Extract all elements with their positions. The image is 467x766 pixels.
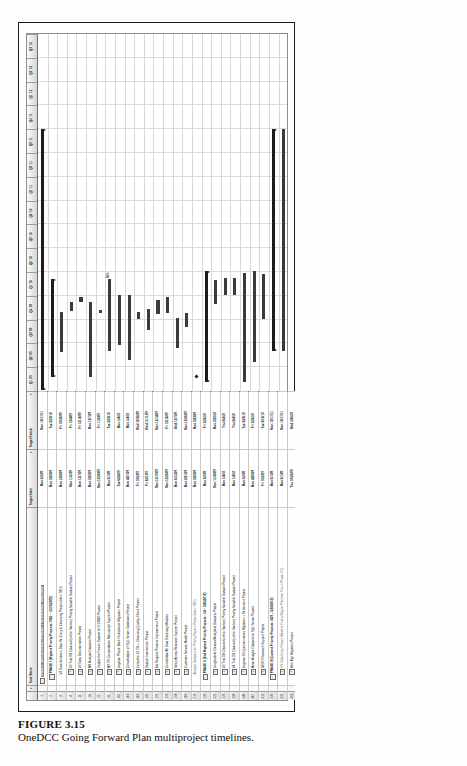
target-finish-cell[interactable]: Fri 3/26/10 — [249, 391, 258, 449]
row-id[interactable]: 240 — [239, 691, 248, 700]
task-name-cell[interactable]: +GERD Research Support Project — [259, 507, 268, 685]
target-start-cell[interactable]: Mon 8/31/09 — [182, 449, 191, 507]
expand-icon[interactable]: + — [231, 669, 236, 674]
target-finish-cell[interactable]: Mon 10/26/09 — [182, 391, 191, 449]
table-row[interactable]: 11+V3 Data Documentation ProjectMon 12/7… — [76, 392, 86, 700]
target-finish-cell[interactable]: Mon 12/7/09 — [86, 391, 95, 449]
expand-icon[interactable]: + — [97, 669, 102, 674]
table-row[interactable]: 321+LIS Data Entry Project (Need to Find… — [278, 392, 288, 700]
row-id[interactable]: 220 — [201, 691, 210, 700]
row-id[interactable]: 233 — [230, 691, 239, 700]
target-start-cell[interactable]: Mon 3/23/09 — [47, 449, 56, 507]
row-id[interactable]: 320 — [268, 691, 277, 700]
task-name-cell[interactable]: +Complete V1 DB + Cleansing Quality Chec… — [134, 507, 143, 685]
table-row[interactable]: 150+Dataset Inventorium ProjectFri 8/21/… — [143, 392, 153, 700]
target-start-cell[interactable]: Fri 8/21/09 — [143, 449, 152, 507]
task-name-cell[interactable]: -PHASE I (Highest Priority Projects: 9/2… — [47, 507, 56, 685]
expand-icon[interactable]: + — [212, 669, 217, 674]
row-id[interactable]: 219 — [191, 691, 200, 700]
target-start-cell[interactable]: Mon 1/4/10 — [220, 449, 229, 507]
task-name-cell[interactable]: +Update the Frozen Dataset to 9/1/2009 P… — [95, 507, 104, 685]
table-row[interactable]: 4+V3 Trial DB Cleaned (within Section) P… — [66, 392, 76, 700]
target-finish-cell[interactable]: Mon 10/17/11 — [268, 391, 277, 449]
task-name-cell[interactable]: +Longitudinal Cleaned Analytical Dataset… — [210, 507, 219, 685]
expand-icon[interactable]: + — [289, 669, 294, 674]
target-finish-cell[interactable]: Wed 5/26/10 — [287, 391, 295, 449]
target-start-cell[interactable]: Tue 6/26/09 — [114, 449, 123, 507]
task-name-cell[interactable]: +V4 Trial DB Cleaned (within Section) Pr… — [230, 507, 239, 685]
row-id[interactable]: 198 — [172, 691, 181, 700]
target-finish-cell[interactable]: Fri 12/4/09 — [66, 391, 75, 449]
target-start-cell[interactable]: Fri 10/2/09 — [259, 449, 268, 507]
expand-icon[interactable]: + — [116, 669, 121, 674]
row-id[interactable]: 2 — [47, 691, 56, 700]
target-start-cell[interactable]: Mon 10/19/09 — [153, 449, 162, 507]
task-name-cell[interactable]: +Web App Migration Project — [287, 507, 295, 685]
table-row[interactable]: 198+Sleep Apnea Research Support Project… — [172, 392, 182, 700]
task-name-cell[interactable]: -PHASE II (2nd Highest Priority Projects… — [201, 507, 210, 685]
target-finish-cell[interactable]: Wed 11/11/09 — [143, 391, 152, 449]
target-finish-cell[interactable]: Fri 11/6/09 — [95, 391, 104, 449]
collapse-icon[interactable]: - — [39, 678, 44, 683]
row-id[interactable]: 4 — [66, 691, 75, 700]
row-id[interactable]: 11 — [76, 691, 85, 700]
expand-icon[interactable]: + — [154, 669, 159, 674]
gantt-task-bar[interactable] — [98, 310, 101, 313]
expand-icon[interactable]: + — [126, 669, 131, 674]
table-row[interactable]: 220-PHASE II (2nd Highest Priority Proje… — [201, 392, 211, 700]
target-start-cell[interactable]: Mon 4/20/09 — [249, 449, 258, 507]
table-row[interactable]: 31+MR-PII Concordation Manuscript Suppor… — [105, 392, 115, 700]
gantt-task-bar[interactable] — [185, 313, 188, 328]
expand-icon[interactable]: + — [183, 669, 188, 674]
collapse-icon[interactable]: - — [49, 674, 54, 679]
expand-icon[interactable]: + — [145, 669, 150, 674]
table-row[interactable]: 3V3 Data Solutions Data Re-Entry & Clean… — [57, 392, 67, 700]
target-finish-cell[interactable]: Fri 12/18/09 — [76, 391, 85, 449]
target-finish-cell[interactable]: Fri 10/30/09 — [57, 391, 66, 449]
task-name-cell[interactable]: +Sleep Apnea Research Support Project — [172, 507, 181, 685]
task-name-cell[interactable]: +Consolidate All Data Dictionary Modules — [162, 507, 171, 685]
target-start-cell[interactable]: Mon 6/1/09 — [105, 449, 114, 507]
target-finish-cell[interactable]: Wed 10/7/09 — [172, 391, 181, 449]
task-name-cell[interactable]: +Customer Service Model Project — [182, 507, 191, 685]
gantt-task-bar[interactable] — [79, 297, 82, 302]
target-start-cell[interactable]: Mon 3/23/09 — [86, 449, 95, 507]
target-start-cell[interactable]: Mon 6/1/09 — [278, 449, 287, 507]
column-header-indicator[interactable]: ▾ — [27, 685, 37, 691]
expand-icon[interactable]: + — [241, 669, 246, 674]
table-row[interactable]: 312+GERD Research Support ProjectFri 10/… — [259, 392, 269, 700]
task-name-cell[interactable]: +MB Analytic Datasets Project — [86, 507, 95, 685]
target-start-cell[interactable]: Mon 6/15/09 — [172, 449, 181, 507]
target-start-cell[interactable]: Mon 5/28/09 — [57, 449, 66, 507]
gantt-task-bar[interactable] — [146, 309, 149, 330]
table-row[interactable]: 226+V3 Trial DB Cleaned (within Section)… — [220, 392, 230, 700]
table-row[interactable]: 14+MB Analytic Datasets ProjectMon 3/23/… — [86, 392, 96, 700]
expand-icon[interactable]: + — [279, 669, 284, 674]
task-name-cell[interactable]: V3 Data Solutions Data Re-Entry & Cleans… — [57, 507, 66, 685]
table-row[interactable]: 2-PHASE I (Highest Priority Projects: 9/… — [47, 392, 57, 700]
gantt-task-bar[interactable] — [137, 312, 140, 319]
target-finish-cell[interactable]: Thu 3/4/10 — [220, 391, 229, 449]
expand-icon[interactable]: + — [164, 669, 169, 674]
task-name-cell[interactable]: +Move Analytic Datasets to SQL Server Pr… — [249, 507, 258, 685]
task-name-cell[interactable]: +Dataset Inventorium Project — [143, 507, 152, 685]
target-start-cell[interactable]: Fri 10/2/09 — [134, 449, 143, 507]
row-id[interactable]: 31 — [105, 691, 114, 700]
expand-icon[interactable]: + — [78, 669, 83, 674]
target-start-cell[interactable]: Thu 10/22/09 — [287, 449, 295, 507]
row-id[interactable]: 191 — [153, 691, 162, 700]
target-finish-cell[interactable]: Tue 3/23/10 — [239, 391, 248, 449]
row-id[interactable]: 105 — [134, 691, 143, 700]
target-finish-cell[interactable]: Mon 10/17/11 — [38, 391, 47, 449]
task-name-cell[interactable]: +Bia Request Process Improvement Project — [153, 507, 162, 685]
target-start-cell[interactable]: Mon 3/2/09 — [239, 449, 248, 507]
task-name-cell[interactable]: +Logician V3 Questionnaires Migration + … — [239, 507, 248, 685]
row-id[interactable]: 221 — [210, 691, 219, 700]
gantt-summary-bar[interactable] — [204, 271, 207, 382]
target-start-cell[interactable]: Mon 11/2/09 — [66, 449, 75, 507]
gantt-task-bar[interactable] — [117, 295, 120, 344]
target-finish-cell[interactable]: Mon 3/23/09 — [191, 391, 200, 449]
expand-icon[interactable]: + — [106, 669, 111, 674]
gantt-task-bar[interactable] — [69, 302, 72, 311]
target-start-cell[interactable]: Mon 10/26/09 — [162, 449, 171, 507]
